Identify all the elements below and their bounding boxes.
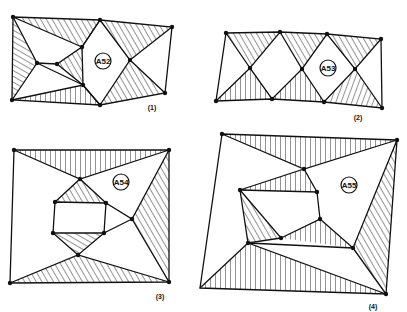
figure-1: A52 (1) <box>10 15 174 112</box>
region-label: A54 <box>114 178 129 187</box>
figure-caption: (3) <box>156 293 165 301</box>
figure-2: A53 (2) <box>214 30 384 122</box>
triangulation-diagrams: A52 (1) A53 (2) <box>0 0 407 312</box>
figure-caption: (4) <box>369 303 378 311</box>
region-label: A55 <box>342 181 357 190</box>
region-label: A52 <box>96 57 111 66</box>
figure-caption: (1) <box>148 104 157 112</box>
region-label: A53 <box>321 64 336 73</box>
figure-3: A54 (3) <box>8 148 171 301</box>
figure-caption: (2) <box>354 114 363 122</box>
figure-4: A55 (4) <box>200 132 399 311</box>
